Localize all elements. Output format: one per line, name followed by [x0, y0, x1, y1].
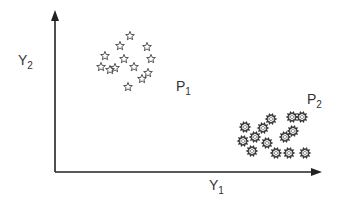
- star-marker-icon: [138, 74, 147, 82]
- star-marker-icon: [144, 68, 153, 76]
- gear-center-icon: [269, 117, 272, 120]
- gear-center-icon: [241, 139, 244, 142]
- star-marker-icon: [147, 54, 156, 62]
- star-marker-icon: [124, 82, 133, 90]
- gear-center-icon: [253, 135, 256, 138]
- x-axis-arrow-icon: [311, 168, 322, 176]
- y-axis-label: Y2: [18, 52, 33, 71]
- star-marker-icon: [97, 62, 106, 70]
- gear-center-icon: [291, 129, 294, 132]
- gear-center-icon: [265, 141, 268, 144]
- x-axis-label: Y1: [209, 177, 224, 196]
- star-marker-icon: [143, 42, 152, 50]
- star-marker-icon: [126, 31, 135, 39]
- star-marker-icon: [101, 51, 110, 59]
- gear-center-icon: [243, 125, 246, 128]
- gear-center-icon: [303, 151, 306, 154]
- star-marker-icon: [116, 41, 125, 49]
- cluster-label-p1: P1: [176, 78, 191, 97]
- y-axis-arrow-icon: [51, 10, 59, 21]
- gear-center-icon: [290, 115, 293, 118]
- cluster-label-p2: P2: [307, 91, 322, 110]
- cluster-p2-gears: [238, 112, 310, 158]
- scatter-diagram: Y2 Y1 P1 P2: [0, 0, 344, 203]
- gear-center-icon: [283, 135, 286, 138]
- gear-center-icon: [300, 115, 303, 118]
- star-marker-icon: [120, 54, 129, 62]
- gear-center-icon: [274, 151, 277, 154]
- star-marker-icon: [130, 62, 139, 70]
- gear-center-icon: [261, 126, 264, 129]
- gear-center-icon: [250, 149, 253, 152]
- gear-center-icon: [287, 151, 290, 154]
- cluster-p1-stars: [97, 31, 156, 90]
